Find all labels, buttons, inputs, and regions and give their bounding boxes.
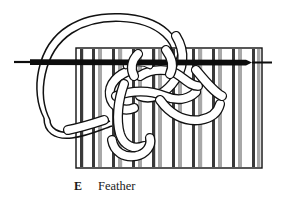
- feather-stitch-illustration: .cord { fill:none; stroke:#111111; strok…: [0, 0, 287, 202]
- feather-stitch-figure: .cord { fill:none; stroke:#111111; strok…: [0, 0, 287, 202]
- figure-caption: E Feather: [0, 176, 287, 196]
- caption-label: Feather: [98, 179, 135, 194]
- needle-bar: [14, 59, 272, 65]
- needle-eye: [214, 61, 236, 65]
- caption-letter: E: [74, 179, 82, 194]
